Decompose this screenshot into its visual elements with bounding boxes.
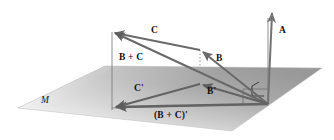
vector-c-shaft [115, 33, 200, 50]
vector-c [115, 33, 200, 50]
label-plane-m: M [41, 96, 49, 106]
label-vector-b-plus-c: B + C [119, 53, 143, 63]
label-vector-c-prime: C' [134, 84, 144, 94]
label-vector-b-plus-c-prime: (B + C)' [154, 111, 188, 121]
vector-projection-figure: C B + C B A C' B' (B + C)' M [0, 0, 334, 140]
label-vector-c: C [151, 26, 158, 36]
label-vector-b: B [216, 54, 223, 64]
plane-m-highlight [18, 66, 322, 131]
label-vector-b-prime: B' [207, 87, 216, 97]
label-vector-a: A [279, 26, 286, 36]
plane-m [18, 66, 322, 131]
